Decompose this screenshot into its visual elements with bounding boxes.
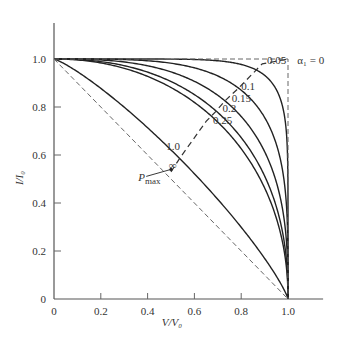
y-tick-label: 0.4 (32, 197, 46, 209)
x-tick-label: 1.0 (281, 305, 295, 317)
series-label: 0.1 (241, 80, 255, 92)
series-label: α₁ = 0 (297, 54, 324, 66)
y-tick-label: 0.6 (32, 149, 46, 161)
axes: 00.20.40.60.81.000.20.40.60.81.0 (32, 23, 323, 317)
pmax-point (169, 168, 172, 171)
y-tick-label: 0.8 (32, 101, 46, 113)
x-tick-label: 0 (51, 305, 57, 317)
series-label: 0.05 (267, 54, 287, 66)
x-tick-label: 0.2 (94, 305, 108, 317)
x-tick-label: 0.6 (188, 305, 202, 317)
series-label: 1.0 (166, 140, 180, 152)
series-label: 0.2 (222, 102, 236, 114)
x-tick-label: 0.4 (141, 305, 155, 317)
curve-labels: 0.050.10.150.20.251.0∞α₁ = 0Pmax (137, 54, 324, 187)
y-tick-label: 0 (41, 293, 47, 305)
series-label: 0.25 (213, 114, 233, 126)
y-tick-label: 0.2 (32, 245, 46, 257)
x-axis-label: V/V₀ (162, 316, 182, 328)
x-tick-label: 0.8 (234, 305, 248, 317)
y-tick-label: 1.0 (32, 53, 46, 65)
y-axis-label: I/I₀ (13, 171, 25, 186)
pmax-subscript: max (145, 176, 161, 186)
iv-curve-chart: 00.20.40.60.81.000.20.40.60.81.0 0.050.1… (0, 0, 340, 351)
curves (54, 59, 288, 299)
series-line (54, 59, 288, 299)
